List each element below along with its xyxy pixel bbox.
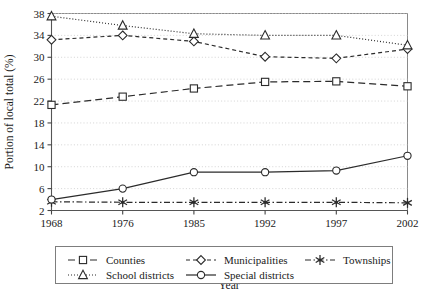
legend-item-municipalities[interactable]: Municipalities xyxy=(186,254,288,266)
data-point-marker xyxy=(190,169,197,176)
x-tick-label: 1968 xyxy=(41,217,64,229)
x-tick-label: 2002 xyxy=(397,217,419,229)
data-point-marker xyxy=(48,196,55,203)
y-tick-label: 10 xyxy=(34,161,46,173)
data-point-marker xyxy=(404,83,411,90)
data-point-marker xyxy=(261,31,270,39)
data-point-marker xyxy=(333,78,340,85)
y-tick-label: 14 xyxy=(34,139,46,151)
series-municipalities xyxy=(47,31,412,63)
x-tick-label: 1992 xyxy=(254,217,276,229)
y-tick-label: 30 xyxy=(34,51,46,63)
legend-label: School districts xyxy=(106,269,174,281)
data-point-marker xyxy=(118,21,127,29)
data-point-marker xyxy=(262,78,269,85)
series-line xyxy=(52,35,408,58)
series-special-districts xyxy=(48,152,411,203)
y-tick-label: 2 xyxy=(39,205,45,217)
legend-label: Counties xyxy=(106,254,145,266)
data-point-marker xyxy=(190,29,199,37)
x-tick-label: 1997 xyxy=(325,217,348,229)
gridlines xyxy=(52,14,408,211)
data-point-marker xyxy=(119,93,126,100)
data-point-marker xyxy=(404,152,411,159)
x-axis-ticks: 196819761985199219972002 xyxy=(41,211,419,229)
chart-figure: 261014182226303438 196819761985199219972… xyxy=(0,0,433,295)
data-point-marker xyxy=(79,256,86,263)
y-tick-label: 26 xyxy=(34,73,46,85)
legend-label: Townships xyxy=(343,254,391,266)
y-tick-label: 38 xyxy=(34,8,46,20)
series-line xyxy=(52,16,408,45)
series-layer xyxy=(47,11,412,207)
data-point-marker xyxy=(48,101,55,108)
data-point-marker xyxy=(47,11,56,19)
data-point-marker xyxy=(197,271,204,278)
x-tick-label: 1976 xyxy=(112,217,135,229)
series-townships xyxy=(47,197,412,208)
data-point-marker xyxy=(332,31,341,39)
series-line xyxy=(52,156,408,200)
series-line xyxy=(52,81,408,105)
y-axis-title: Portion of local total (%) xyxy=(3,54,16,169)
y-tick-label: 6 xyxy=(39,183,45,195)
y-tick-label: 22 xyxy=(34,95,45,107)
legend-label: Municipalities xyxy=(224,254,288,266)
legend-label: Special districts xyxy=(224,269,294,281)
series-counties xyxy=(48,78,411,109)
data-point-marker xyxy=(332,54,341,63)
x-tick-label: 1985 xyxy=(183,217,206,229)
y-tick-label: 18 xyxy=(34,117,46,129)
series-line xyxy=(52,202,408,203)
data-point-marker xyxy=(333,167,340,174)
data-point-marker xyxy=(118,31,127,40)
y-tick-label: 34 xyxy=(34,29,46,41)
data-point-marker xyxy=(47,35,56,44)
data-point-marker xyxy=(190,37,199,46)
data-point-marker xyxy=(190,85,197,92)
line-chart: 261014182226303438 196819761985199219972… xyxy=(0,0,433,295)
data-point-marker xyxy=(261,52,270,61)
plot-frame xyxy=(52,14,408,211)
series-school-districts xyxy=(47,11,412,48)
data-point-marker xyxy=(262,169,269,176)
data-point-marker xyxy=(119,185,126,192)
